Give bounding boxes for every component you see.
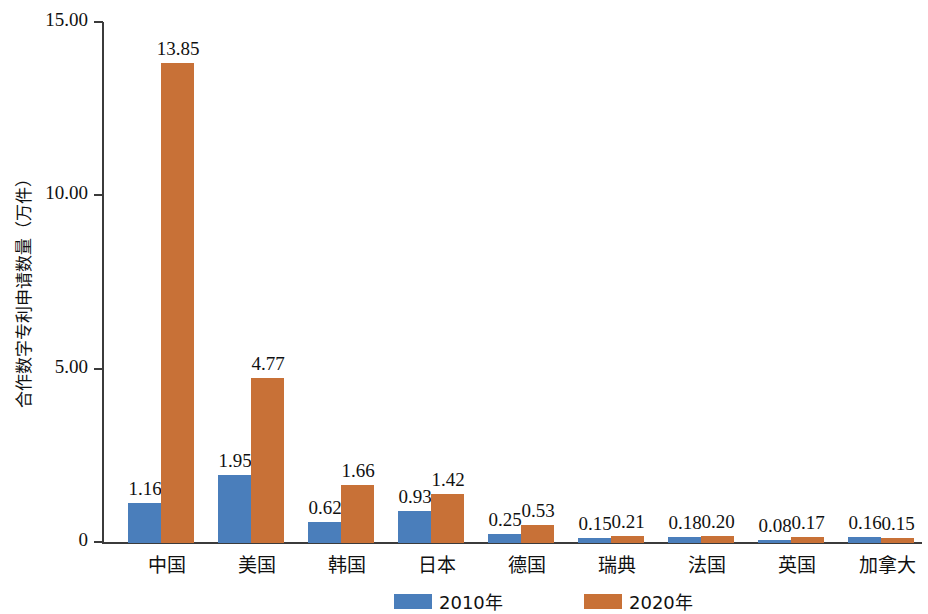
y-axis-tick-label: 5.00 [0,356,88,378]
bar [791,537,824,543]
y-axis-tick-label-wrap: 15.00 [0,9,88,31]
y-axis-tick-label: 10.00 [0,182,88,204]
bar [431,494,464,543]
y-axis-tick-label: 0 [0,529,88,551]
y-axis-tick-label-wrap: 0 [0,529,88,551]
bar-group: 0.160.15 [842,22,928,543]
x-axis-category-label: 加拿大 [827,550,928,577]
plot-area: 1.1613.851.954.770.621.660.931.420.250.5… [104,22,922,543]
bar-value-label: 1.42 [421,469,475,491]
bar-value-label: 1.66 [331,460,385,482]
bar-group: 1.1613.85 [122,22,212,543]
legend-label: 2020年 [629,588,693,614]
bar [308,522,341,543]
bar-group: 0.621.66 [302,22,392,543]
bar [521,525,554,543]
bar-value-label: 0.21 [601,511,655,533]
y-axis-tick-label-wrap: 10.00 [0,182,88,204]
bar-group: 0.931.42 [392,22,482,543]
bar [881,538,914,543]
legend-color-swatch [584,594,622,609]
bar-value-label: 0.20 [691,511,745,533]
bar-group: 0.150.21 [572,22,662,543]
y-axis-title: 合作数字专利申请数量（万件） [10,29,35,549]
legend-label: 2010年 [439,588,503,614]
bar-value-label: 0.17 [781,512,835,534]
bar [488,534,521,543]
bar-value-label: 0.15 [871,513,925,535]
bar [611,536,644,543]
bar-chart: 合作数字专利申请数量（万件） 05.0010.0015.00 1.1613.85… [0,0,928,614]
bar-group: 0.250.53 [482,22,572,543]
bar [161,63,194,543]
bar [848,537,881,543]
bar [668,537,701,543]
bar-group: 0.080.17 [752,22,842,543]
bar [578,538,611,543]
bar [398,511,431,543]
bar [218,475,251,543]
bar-group: 1.954.77 [212,22,302,543]
bar-value-label: 0.53 [511,500,565,522]
chart-legend: 2010年2020年 [0,588,928,614]
legend-item[interactable]: 2010年 [394,588,503,614]
bar [341,485,374,543]
legend-color-swatch [394,594,432,609]
bar-value-label: 4.77 [241,353,295,375]
y-axis-tick-label: 15.00 [0,9,88,31]
bar-value-label: 13.85 [151,38,205,60]
bar-group: 0.180.20 [662,22,752,543]
bar [251,378,284,543]
bar [758,540,791,543]
legend-item[interactable]: 2020年 [584,588,693,614]
bar [701,536,734,543]
y-axis-tick-label-wrap: 5.00 [0,356,88,378]
bar [128,503,161,543]
